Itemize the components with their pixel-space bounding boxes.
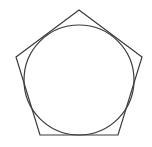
inscribed-circle <box>24 25 134 135</box>
pentagon-shape <box>16 10 142 135</box>
diagram-canvas <box>0 0 152 147</box>
